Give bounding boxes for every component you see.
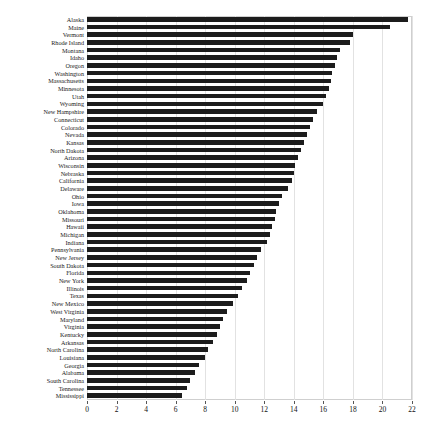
bar <box>87 255 257 260</box>
y-axis-label: Virginia <box>64 323 84 331</box>
y-axis-label: Pennsylvania <box>51 246 84 254</box>
bar <box>87 32 353 37</box>
bar-row <box>87 70 412 78</box>
x-tick-mark <box>264 401 265 404</box>
bar-row <box>87 231 412 239</box>
bar-row <box>87 254 412 262</box>
bar <box>87 171 294 176</box>
bar-row <box>87 85 412 93</box>
bar-row <box>87 139 412 147</box>
y-axis-label: Connecticut <box>54 116 84 124</box>
y-axis-label: New Jersey <box>55 254 84 262</box>
bar-row <box>87 277 412 285</box>
y-axis-label: Oregon <box>65 62 84 70</box>
bar <box>87 278 247 283</box>
y-axis-label: Michigan <box>60 231 84 239</box>
y-axis-label: Colorado <box>61 124 84 132</box>
bar <box>87 232 270 237</box>
y-axis-label: Ohio <box>72 193 84 201</box>
bar <box>87 186 288 191</box>
bar <box>87 155 298 160</box>
bar-row <box>87 239 412 247</box>
bar-row <box>87 346 412 354</box>
bar-row <box>87 193 412 201</box>
grid-line-22 <box>412 16 413 400</box>
x-tick-label: 14 <box>290 405 298 414</box>
bar-row <box>87 147 412 155</box>
bar-row <box>87 154 412 162</box>
x-tick-label: 12 <box>261 405 269 414</box>
y-axis-label: Montana <box>62 47 84 55</box>
x-tick-mark <box>235 401 236 404</box>
bar <box>87 17 408 22</box>
y-axis-label: Wyoming <box>60 100 84 108</box>
x-tick-label: 8 <box>203 405 207 414</box>
y-axis-label: Nebraska <box>61 170 84 178</box>
bar <box>87 148 301 153</box>
bar <box>87 178 292 183</box>
bar-row <box>87 331 412 339</box>
bar-row <box>87 369 412 377</box>
bar <box>87 201 279 206</box>
bar-row <box>87 31 412 39</box>
bar <box>87 86 329 91</box>
y-axis-label: Maryland <box>60 316 84 324</box>
bar <box>87 94 326 99</box>
y-axis-label: Florida <box>66 269 84 277</box>
bar <box>87 378 190 383</box>
bar-row <box>87 54 412 62</box>
y-axis-label: Iowa <box>72 200 84 208</box>
bar <box>87 55 337 60</box>
bar <box>87 224 272 229</box>
bar <box>87 79 331 84</box>
x-tick-label: 20 <box>379 405 387 414</box>
y-axis-label: Illinois <box>66 285 84 293</box>
bar <box>87 386 187 391</box>
x-tick-label: 16 <box>320 405 328 414</box>
y-axis-label: Kansas <box>66 139 84 147</box>
bar-row <box>87 108 412 116</box>
bar <box>87 117 313 122</box>
bar-row <box>87 116 412 124</box>
bar-row <box>87 24 412 32</box>
x-tick-mark <box>294 401 295 404</box>
y-axis-label: North Carolina <box>47 346 84 354</box>
bar-row <box>87 39 412 47</box>
x-tick-label: 2 <box>115 405 119 414</box>
bar <box>87 132 307 137</box>
bar-row <box>87 292 412 300</box>
bar <box>87 355 205 360</box>
bar-row <box>87 124 412 132</box>
bar-row <box>87 93 412 101</box>
bar-row <box>87 100 412 108</box>
y-axis-label: Alaska <box>67 16 84 24</box>
y-axis-labels: AlaskaMaineVermontRhode IslandMontanaIda… <box>0 16 84 400</box>
y-axis-label: Texas <box>70 292 84 300</box>
x-tick-mark <box>176 401 177 404</box>
bar <box>87 109 317 114</box>
bar <box>87 347 208 352</box>
bar-row <box>87 339 412 347</box>
bar-row <box>87 262 412 270</box>
bar <box>87 294 238 299</box>
y-axis-label: Alabama <box>62 369 84 377</box>
bar <box>87 301 233 306</box>
y-axis-label: Minnesota <box>58 85 84 93</box>
bar-row <box>87 177 412 185</box>
bar-row <box>87 185 412 193</box>
x-tick-mark <box>323 401 324 404</box>
bar <box>87 240 267 245</box>
bar <box>87 324 220 329</box>
y-axis-label: Arkansas <box>61 339 84 347</box>
bar-row <box>87 354 412 362</box>
bar-row <box>87 392 412 400</box>
bar-row <box>87 308 412 316</box>
y-axis-label: New Mexico <box>52 300 84 308</box>
y-axis-label: New Hampshire <box>44 108 84 116</box>
bar <box>87 194 282 199</box>
bar-row <box>87 300 412 308</box>
y-axis-label: Missouri <box>62 216 84 224</box>
bar-row <box>87 223 412 231</box>
x-tick-label: 6 <box>174 405 178 414</box>
bar-row <box>87 200 412 208</box>
